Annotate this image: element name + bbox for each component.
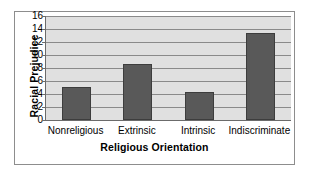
y-tick-label: 2	[21, 102, 43, 112]
y-tick-label: 8	[21, 63, 43, 73]
plot-area	[45, 16, 291, 121]
y-axis-tick-labels: 0246810121416	[21, 16, 43, 120]
x-axis-title: Religious Orientation	[15, 141, 294, 153]
y-tick-label: 4	[21, 89, 43, 99]
bar	[246, 33, 275, 120]
x-tick-label: Indiscriminate	[225, 124, 294, 138]
y-tick-label: 16	[21, 11, 43, 21]
y-tick-label: 0	[21, 115, 43, 125]
bar	[123, 64, 152, 120]
y-tick-label: 12	[21, 37, 43, 47]
bar	[185, 92, 214, 120]
x-tick-label: Intrinsic	[164, 124, 233, 138]
bar-chart-figure: Racial Prejudice 0246810121416 Nonreligi…	[0, 0, 310, 178]
y-tick-label: 14	[21, 24, 43, 34]
y-tick-label: 6	[21, 76, 43, 86]
chart-frame: Racial Prejudice 0246810121416 Nonreligi…	[14, 11, 295, 165]
y-tick-label: 10	[21, 50, 43, 60]
x-axis-category-labels: NonreligiousExtrinsicIntrinsicIndiscrimi…	[45, 124, 290, 140]
x-tick-label: Nonreligious	[41, 124, 110, 138]
x-tick-label: Extrinsic	[102, 124, 171, 138]
bars-layer	[46, 16, 291, 120]
bar	[62, 87, 91, 120]
